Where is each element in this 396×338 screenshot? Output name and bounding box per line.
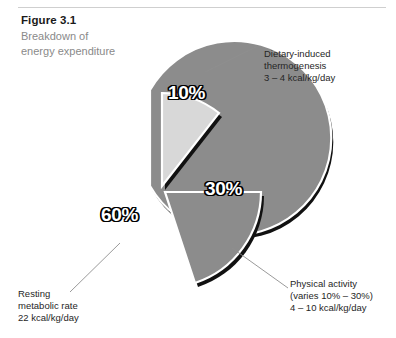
callout-resting-line2: metabolic rate — [18, 300, 79, 312]
callout-physical-line1: Physical activity — [290, 278, 373, 290]
leader-line-physical — [232, 248, 288, 288]
callout-dietary-line1: Dietary-induced — [264, 48, 335, 60]
callout-dietary-line3: 3 – 4 kcal/kg/day — [264, 72, 335, 84]
slice-percent-dietary: 10% — [168, 82, 205, 104]
callout-resting-line1: Resting — [18, 288, 79, 300]
callout-dietary-induced-thermogenesis: Dietary-induced thermogenesis 3 – 4 kcal… — [264, 48, 335, 85]
slice-percent-resting: 60% — [101, 204, 138, 226]
callout-dietary-line2: thermogenesis — [264, 60, 335, 72]
pie-slice-physical[interactable] — [165, 192, 264, 287]
callout-physical-line2: (varies 10% – 30%) — [290, 290, 373, 302]
slice-percent-physical: 30% — [205, 178, 242, 200]
figure-container: Figure 3.1 Breakdown of energy expenditu… — [0, 0, 396, 338]
callout-resting-metabolic-rate: Resting metabolic rate 22 kcal/kg/day — [18, 288, 79, 325]
callout-physical-activity: Physical activity (varies 10% – 30%) 4 –… — [290, 278, 373, 315]
callout-physical-line3: 4 – 10 kcal/kg/day — [290, 302, 373, 314]
callout-resting-line3: 22 kcal/kg/day — [18, 312, 79, 324]
leader-line-resting — [70, 243, 120, 292]
